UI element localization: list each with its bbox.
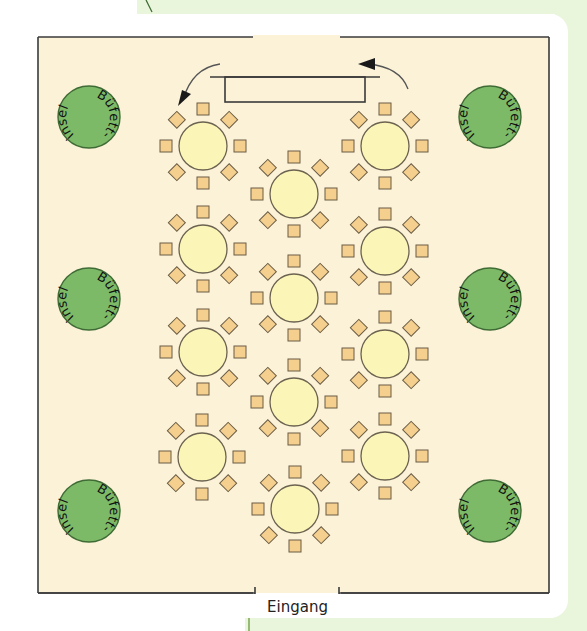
chair: [288, 359, 300, 371]
round-table: [271, 485, 319, 533]
chair: [326, 503, 338, 515]
chair: [196, 414, 208, 426]
top-opening: [253, 35, 340, 38]
chair: [197, 280, 209, 292]
round-table: [179, 225, 227, 273]
chair: [379, 177, 391, 189]
chair: [288, 225, 300, 237]
chair: [416, 450, 428, 462]
chair: [289, 540, 301, 552]
chair: [251, 396, 263, 408]
chair: [197, 103, 209, 115]
chair: [379, 487, 391, 499]
chair: [159, 451, 171, 463]
chair: [342, 245, 354, 257]
chair: [160, 140, 172, 152]
chair: [325, 396, 337, 408]
chair: [197, 206, 209, 218]
chair: [288, 433, 300, 445]
chair: [233, 451, 245, 463]
chair: [325, 188, 337, 200]
chair: [234, 243, 246, 255]
round-table: [361, 432, 409, 480]
chair: [379, 311, 391, 323]
chair: [288, 151, 300, 163]
chair: [289, 466, 301, 478]
chair: [197, 177, 209, 189]
chair: [252, 503, 264, 515]
chair: [234, 346, 246, 358]
round-table: [179, 328, 227, 376]
chair: [196, 488, 208, 500]
green-bottom-strip: [245, 617, 587, 631]
chair: [197, 309, 209, 321]
entrance-label: Eingang: [260, 598, 335, 616]
round-table: [361, 330, 409, 378]
round-table: [270, 170, 318, 218]
chair: [416, 348, 428, 360]
round-table: [361, 122, 409, 170]
round-table: [270, 274, 318, 322]
floor-plan: Büfett-inselBüfett-inselBüfett-inselBüfe…: [0, 0, 587, 631]
chair: [342, 348, 354, 360]
chair: [197, 383, 209, 395]
chair: [234, 140, 246, 152]
chair: [379, 385, 391, 397]
round-table: [270, 378, 318, 426]
chair: [342, 450, 354, 462]
chair: [416, 140, 428, 152]
chair: [251, 188, 263, 200]
chair: [379, 208, 391, 220]
chair: [288, 329, 300, 341]
chair: [379, 282, 391, 294]
chair: [160, 243, 172, 255]
chair: [160, 346, 172, 358]
chair: [379, 103, 391, 115]
chair: [288, 255, 300, 267]
round-table: [361, 227, 409, 275]
chair: [342, 140, 354, 152]
green-top-strip: [137, 0, 587, 14]
chair: [251, 292, 263, 304]
chair: [325, 292, 337, 304]
chair: [379, 413, 391, 425]
chair: [416, 245, 428, 257]
round-table: [178, 433, 226, 481]
round-table: [179, 122, 227, 170]
